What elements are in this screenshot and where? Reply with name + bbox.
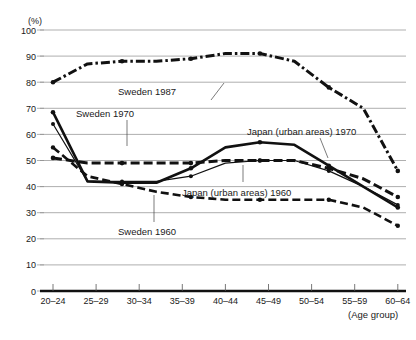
data-point xyxy=(189,56,194,61)
data-point xyxy=(327,169,331,173)
data-point xyxy=(396,203,400,207)
data-point xyxy=(327,163,332,168)
data-point xyxy=(327,85,332,90)
data-point xyxy=(396,195,401,200)
data-point xyxy=(258,198,262,202)
data-point xyxy=(258,159,262,163)
data-point xyxy=(396,169,401,174)
data-point xyxy=(396,224,400,228)
y-tick-label: 60 xyxy=(26,130,36,140)
y-axis-unit-label: (%) xyxy=(28,16,42,26)
label-sweden-1960: Sweden 1960 xyxy=(118,226,176,237)
x-tick-label: 50–54 xyxy=(299,296,324,306)
data-point xyxy=(258,51,263,56)
y-tick-label: 70 xyxy=(26,104,36,114)
data-point xyxy=(51,156,56,161)
label-japan-1970: Japan (urban areas) 1970 xyxy=(247,126,356,137)
label-sweden-1987: Sweden 1987 xyxy=(118,86,176,97)
y-tick-label: 100 xyxy=(21,26,36,36)
y-tick-label: 30 xyxy=(26,208,36,218)
y-tick-label: 80 xyxy=(26,78,36,88)
data-point xyxy=(51,145,55,149)
y-tick-label: 90 xyxy=(26,52,36,62)
x-tick-label: 35–39 xyxy=(170,296,195,306)
x-axis-caption: (Age group) xyxy=(348,309,398,320)
data-point xyxy=(189,166,194,171)
data-point xyxy=(327,198,331,202)
data-point xyxy=(258,140,263,145)
x-tick-label: 20–24 xyxy=(40,296,65,306)
label-sweden-1970: Sweden 1970 xyxy=(76,108,134,119)
data-point xyxy=(189,174,193,178)
x-tick-label: 40–44 xyxy=(213,296,238,306)
y-tick-label: 40 xyxy=(26,182,36,192)
data-point xyxy=(51,110,56,115)
data-point xyxy=(120,59,125,64)
data-point xyxy=(189,161,194,166)
data-point xyxy=(51,122,55,126)
y-tick-label: 0 xyxy=(31,287,36,297)
x-tick-label: 60–64 xyxy=(385,296,410,306)
x-tick-label: 55–59 xyxy=(342,296,367,306)
x-tick-label: 30–34 xyxy=(127,296,152,306)
y-tick-label: 20 xyxy=(26,234,36,244)
line-chart: 1009080706050403020100 (%) 20–2425–2930–… xyxy=(0,0,416,340)
data-point xyxy=(120,161,125,166)
data-point xyxy=(51,80,56,85)
x-tick-label: 45–49 xyxy=(256,296,281,306)
y-tick-label: 50 xyxy=(26,156,36,166)
label-japan-1960: Japan (urban areas) 1960 xyxy=(182,187,291,198)
x-tick-label: 25–29 xyxy=(84,296,109,306)
data-point xyxy=(120,182,124,186)
chart-container: 1009080706050403020100 (%) 20–2425–2930–… xyxy=(0,0,416,340)
y-tick-label: 10 xyxy=(26,260,36,270)
x-axis-tick-labels: 20–2425–2930–3435–3940–4445–4950–5455–59… xyxy=(40,296,410,306)
